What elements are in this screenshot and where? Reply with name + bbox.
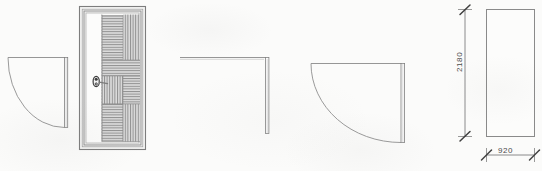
- handle-knob-icon: [95, 78, 98, 81]
- door-lower-right-panel: [123, 104, 141, 142]
- plan-left-swing-arc: [8, 58, 65, 128]
- drawing-sheet: 2180 920: [0, 0, 542, 171]
- plan-right-swing-arc: [311, 64, 401, 143]
- door-middle-panel: [102, 76, 123, 104]
- door-middle-upper-band: [102, 60, 141, 76]
- dimension-height-label: 2180: [455, 52, 464, 72]
- architectural-drawing-canvas: [0, 0, 542, 171]
- door-upper-panel: [102, 16, 123, 60]
- dimensioned-elevation: [487, 10, 535, 137]
- plan-view-middle: [180, 58, 269, 134]
- door-leaf-outline: [487, 10, 535, 137]
- dimension-width-label: 920: [498, 146, 513, 155]
- door-middle-right-panel: [123, 76, 141, 104]
- plan-view-right: [311, 64, 405, 143]
- elevation-view: [80, 7, 146, 150]
- door-lower-panel: [102, 104, 123, 142]
- plan-view-left: [8, 58, 68, 128]
